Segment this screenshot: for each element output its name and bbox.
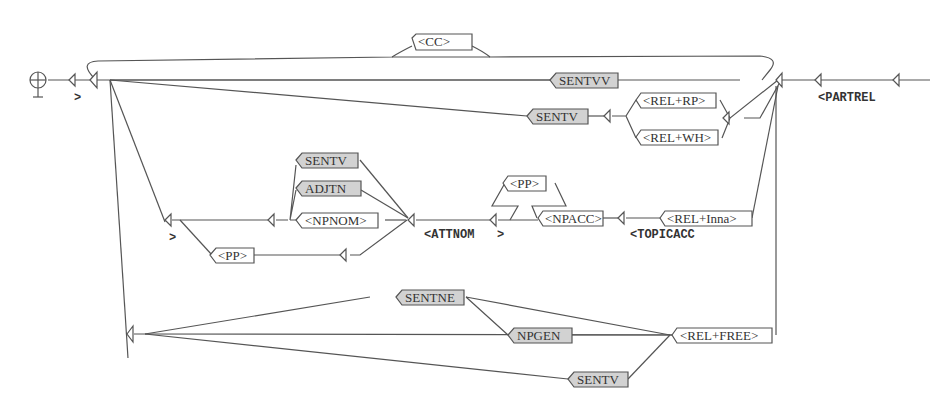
node-sentv-mid[interactable]: SENTV [296,153,358,168]
node-cc[interactable]: <CC> [412,34,472,50]
node-rel-wh[interactable]: <REL+WH> [636,130,718,145]
output-attnom: <ATTNOM [424,228,474,242]
node-rel-rp-label: <REL+RP> [643,93,705,108]
node-sentvv[interactable]: SENTVV [550,73,618,88]
output-close-main: > [74,91,81,105]
node-npgen-label: NPGEN [517,328,561,343]
node-sentv-top-label: SENTV [536,109,579,124]
node-sentv-bottom[interactable]: SENTV [568,372,628,387]
node-pp-top[interactable]: <PP> [503,176,546,191]
node-pp-left[interactable]: <PP> [210,248,254,263]
node-npnom-label: <NPNOM> [305,213,367,228]
node-pp-left-label: <PP> [218,248,247,263]
node-sentne[interactable]: SENTNE [396,290,464,305]
initial-state-icon [30,72,46,97]
node-npacc-label: <NPACC> [545,211,602,226]
node-npacc[interactable]: <NPACC> [538,211,603,226]
node-rel-inna-label: <REL+Inna> [667,211,737,226]
node-adjtn-label: ADJTN [305,181,347,196]
output-close-attnom: > [169,231,176,245]
output-partrel: <PARTREL [818,91,876,105]
node-adjtn[interactable]: ADJTN [296,181,361,196]
output-topicacc: <TOPICACC [630,228,695,242]
edges [48,46,930,379]
node-rel-free-label: <REL+FREE> [680,328,758,343]
node-rel-free[interactable]: <REL+FREE> [672,328,772,343]
output-close-attnom-b: > [497,228,504,242]
node-sentv-mid-label: SENTV [305,153,348,168]
node-cc-label: <CC> [418,34,450,49]
node-sentv-top[interactable]: SENTV [527,109,588,124]
node-sentv-bottom-label: SENTV [577,372,620,387]
node-rel-inna[interactable]: <REL+Inna> [660,211,752,226]
node-pp-top-label: <PP> [510,176,539,191]
node-rel-wh-label: <REL+WH> [643,130,711,145]
node-sentne-label: SENTNE [405,290,455,305]
node-rel-rp[interactable]: <REL+RP> [636,93,716,108]
node-npnom[interactable]: <NPNOM> [296,213,378,228]
grammar-graph: <CC> SENTVV SENTV <REL+RP> <REL+WH> SENT… [0,0,942,410]
node-sentvv-label: SENTVV [559,73,611,88]
node-npgen[interactable]: NPGEN [508,328,572,343]
